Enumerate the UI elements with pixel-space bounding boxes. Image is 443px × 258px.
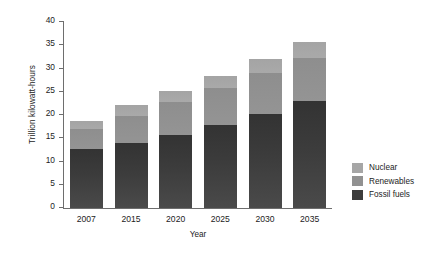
bar-segment-fossil-fuels <box>115 143 148 208</box>
bar-segment-fossil-fuels <box>293 101 326 208</box>
x-axis-line <box>63 208 332 209</box>
legend-swatch-icon <box>352 176 363 186</box>
bar-segment-nuclear <box>70 121 103 130</box>
y-tick: 30 <box>59 68 64 69</box>
bar-segment-renewables <box>70 129 103 149</box>
bar-segment-fossil-fuels <box>249 114 282 208</box>
bar-segment-renewables <box>159 102 192 135</box>
legend-item-renewables[interactable]: Renewables <box>352 175 440 189</box>
y-tick: 40 <box>59 21 64 22</box>
bar-2007 <box>70 121 103 208</box>
legend-item-nuclear[interactable]: Nuclear <box>352 161 440 175</box>
bar-segment-renewables <box>293 58 326 101</box>
y-tick: 25 <box>59 91 64 92</box>
y-tick: 5 <box>59 184 64 185</box>
chart-legend: NuclearRenewablesFossil fuels <box>352 161 440 202</box>
legend-item-label: Fossil fuels <box>369 190 410 199</box>
bar-2035 <box>293 42 326 208</box>
legend-item-fossil-fuels[interactable]: Fossil fuels <box>352 188 440 202</box>
y-tick: 15 <box>59 137 64 138</box>
y-tick-label: 0 <box>50 201 55 211</box>
bar-segment-fossil-fuels <box>70 149 103 208</box>
y-tick: 20 <box>59 114 64 115</box>
bar-2030 <box>249 59 282 208</box>
y-tick: 35 <box>59 44 64 45</box>
y-tick-label: 25 <box>46 85 55 95</box>
bar-segment-nuclear <box>159 91 192 102</box>
y-tick-label: 10 <box>46 155 55 165</box>
bar-2015 <box>115 105 148 208</box>
y-tick-label: 40 <box>46 15 55 25</box>
y-tick-label: 35 <box>46 38 55 48</box>
bar-segment-nuclear <box>293 42 326 58</box>
y-tick: 0 <box>59 207 64 208</box>
x-axis-title: Year <box>64 230 332 239</box>
y-tick-label: 20 <box>46 108 55 118</box>
y-tick-label: 15 <box>46 131 55 141</box>
bar-segment-nuclear <box>249 59 282 73</box>
bar-segment-fossil-fuels <box>204 125 237 208</box>
y-tick-label: 5 <box>50 178 55 188</box>
bar-2025 <box>204 76 237 208</box>
y-tick: 10 <box>59 161 64 162</box>
y-axis-line <box>63 22 64 209</box>
bar-segment-renewables <box>249 73 282 113</box>
bar-segment-nuclear <box>204 76 237 88</box>
legend-swatch-icon <box>352 163 363 173</box>
bar-segment-nuclear <box>115 105 148 116</box>
plot-area: 0510152025303540 20072015202020252030203… <box>64 22 332 208</box>
y-axis-title: Trillion kilowatt-hours <box>28 25 37 185</box>
stacked-bar-chart: Trillion kilowatt-hours 0510152025303540… <box>0 0 443 258</box>
legend-item-label: Nuclear <box>369 163 397 172</box>
x-tick-label: 2035 <box>280 214 340 224</box>
legend-item-label: Renewables <box>369 177 414 186</box>
bar-segment-renewables <box>204 88 237 125</box>
y-tick-label: 30 <box>46 62 55 72</box>
bar-segment-renewables <box>115 116 148 143</box>
bar-segment-fossil-fuels <box>159 135 192 208</box>
bar-2020 <box>159 91 192 208</box>
legend-swatch-icon <box>352 190 363 200</box>
